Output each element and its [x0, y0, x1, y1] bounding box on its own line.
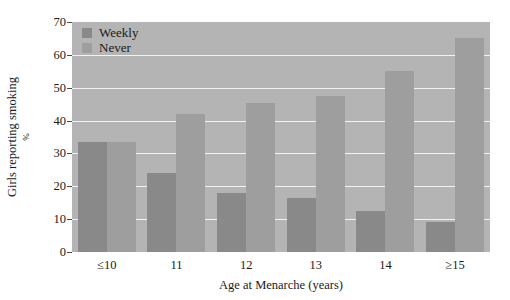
- x-tick-label: ≥15: [445, 259, 464, 272]
- chart-legend: Weekly Never: [82, 25, 138, 55]
- y-tick-label: 20: [54, 180, 67, 193]
- y-tick-label: 50: [54, 81, 67, 94]
- bar-group: [281, 22, 351, 252]
- x-axis-title: Age at Menarche (years): [219, 278, 343, 293]
- bar-weekly-3: [287, 198, 316, 252]
- bar-weekly-2: [217, 193, 246, 252]
- y-tick-label: 0: [60, 246, 66, 259]
- y-axis-title-text: Girls reporting smoking: [5, 77, 19, 197]
- legend-swatch-weekly: [82, 28, 92, 38]
- bar-group: [142, 22, 212, 252]
- bar-weekly-5: [426, 222, 455, 252]
- y-tick-label: 70: [54, 16, 67, 29]
- bar-never-5: [455, 38, 484, 252]
- x-tick-label: 14: [379, 259, 392, 272]
- y-axis: Girls reporting smoking % 01020304050607…: [0, 0, 72, 300]
- bar-never-0: [107, 142, 136, 252]
- bars-layer: [72, 22, 490, 252]
- x-tick-label: 11: [170, 259, 182, 272]
- bar-weekly-0: [78, 142, 107, 252]
- bar-group: [211, 22, 281, 252]
- y-tick-label: 30: [54, 147, 67, 160]
- bar-never-2: [246, 103, 275, 253]
- bar-weekly-4: [356, 211, 385, 252]
- legend-label-never: Never: [99, 41, 131, 54]
- bar-never-4: [385, 71, 414, 252]
- y-tick-mark: [67, 252, 72, 253]
- bar-group: [72, 22, 142, 252]
- x-tick-label: ≤10: [97, 259, 116, 272]
- bar-never-3: [316, 96, 345, 252]
- bar-chart-figure: Girls reporting smoking % 01020304050607…: [0, 0, 510, 300]
- y-tick-label: 60: [54, 49, 67, 62]
- x-tick-label: 13: [310, 259, 323, 272]
- y-tick-label: 10: [54, 213, 67, 226]
- legend-item-never: Never: [82, 40, 138, 55]
- legend-item-weekly: Weekly: [82, 25, 138, 40]
- legend-label-weekly: Weekly: [99, 26, 138, 39]
- y-axis-unit: %: [21, 77, 31, 197]
- y-axis-title: Girls reporting smoking %: [5, 77, 31, 197]
- bar-group: [420, 22, 490, 252]
- y-tick-label: 40: [54, 114, 67, 127]
- x-tick-label: 12: [240, 259, 253, 272]
- plot-area: [72, 22, 490, 252]
- bar-weekly-1: [147, 173, 176, 252]
- legend-swatch-never: [82, 43, 92, 53]
- bar-never-1: [176, 114, 205, 252]
- bar-group: [351, 22, 421, 252]
